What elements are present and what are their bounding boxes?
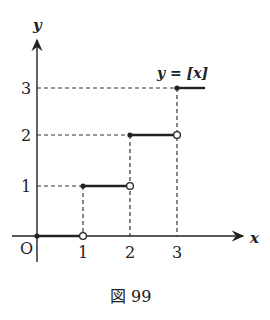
x-tick-1: 1 [78,243,88,262]
y-tick-3: 3 [21,79,31,98]
step-segments [37,88,205,236]
x-tick-2: 2 [125,243,135,262]
floor-function-graph: y x O 1 2 3 1 2 3 y = [x] 図 99 [0,0,270,320]
origin-label: O [20,239,33,258]
y-axis-label: y [32,16,43,34]
x-tick-3: 3 [172,243,182,262]
x-axis-label: x [249,229,260,247]
figure-caption: 図 99 [110,287,151,306]
y-tick-1: 1 [21,177,31,196]
guide-lines [37,88,177,236]
y-tick-2: 2 [21,126,31,145]
closed-points [34,85,179,238]
function-label: y = [x] [156,65,209,81]
